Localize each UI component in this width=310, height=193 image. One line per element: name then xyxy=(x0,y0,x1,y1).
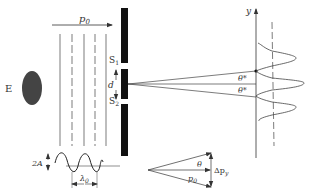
ray-upper xyxy=(128,71,256,84)
delta-p-label: Δpy xyxy=(214,166,229,177)
slit-separation: d xyxy=(108,70,116,99)
envelope-dashed-line xyxy=(272,22,274,146)
wave-curve xyxy=(55,153,103,172)
triangle-lower-vector xyxy=(148,170,211,187)
slit-barrier xyxy=(121,8,128,156)
source-label: E xyxy=(5,83,12,94)
y-axis-label: y xyxy=(245,6,252,16)
slit-s1-label: S1 xyxy=(109,55,119,66)
interference-curve xyxy=(256,43,304,121)
electron-source: E xyxy=(5,71,42,105)
triangle-angle-label: θ xyxy=(197,160,202,169)
matter-wave: 2A λ0 xyxy=(31,153,120,188)
incident-momentum: p0 xyxy=(52,13,112,26)
angle-lower-label: θ* xyxy=(238,86,247,95)
double-slit-diagram: E p0 S1 S2 d θ* θ* y xyxy=(0,0,310,193)
angle-upper-label: θ* xyxy=(238,74,247,83)
barrier-bottom xyxy=(121,104,128,156)
momentum-triangle: θ p0 Δpy xyxy=(148,153,229,187)
momentum-label: p0 xyxy=(79,13,90,26)
screen-axis: y xyxy=(245,6,258,158)
barrier-middle xyxy=(121,69,128,99)
wavelength-label: λ0 xyxy=(79,174,89,184)
diffraction-rays xyxy=(128,71,256,97)
separation-label: d xyxy=(108,80,114,90)
slit-s2-label: S2 xyxy=(109,96,119,107)
amplitude-label: 2A xyxy=(31,159,43,168)
barrier-top xyxy=(121,8,128,63)
source-ellipse xyxy=(22,71,42,105)
wavefronts xyxy=(60,34,106,146)
ray-lower xyxy=(128,84,256,97)
triangle-hyp-label: p0 xyxy=(188,174,197,184)
